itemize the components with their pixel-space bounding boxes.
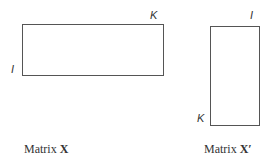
matrix-x-transpose-row-label: K bbox=[197, 113, 204, 124]
matrix-x-rectangle bbox=[22, 24, 164, 76]
matrix-x-caption: Matrix X bbox=[24, 143, 68, 155]
matrix-x-col-label: K bbox=[150, 10, 157, 21]
matrix-x-transpose-rectangle bbox=[210, 26, 260, 126]
matrix-x-caption-symbol: X bbox=[60, 142, 69, 156]
matrix-x-row-label: I bbox=[11, 64, 14, 75]
matrix-x-transpose-caption: Matrix X′ bbox=[204, 143, 252, 155]
matrix-x-transpose-caption-symbol: X′ bbox=[240, 142, 252, 156]
matrix-x-transpose-caption-prefix: Matrix bbox=[204, 142, 240, 156]
matrix-x-transpose-col-label: I bbox=[250, 10, 253, 21]
matrix-x-caption-prefix: Matrix bbox=[24, 142, 60, 156]
